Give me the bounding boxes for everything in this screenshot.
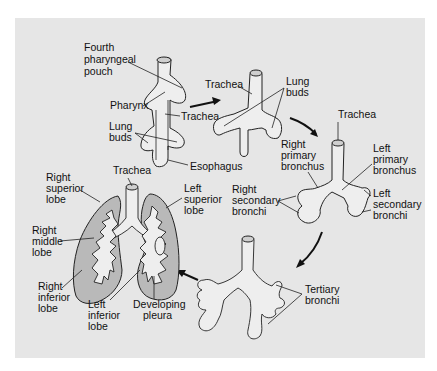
label-right-superior-3: lobe (46, 193, 66, 205)
label-trachea-stage2: Trachea (205, 78, 243, 90)
label-left-secondary-3: bronchi (373, 209, 407, 221)
label-tertiary-2: bronchi (305, 294, 339, 306)
label-left-superior-3: lobe (184, 204, 204, 216)
stage1-pharynx-lung-buds (141, 57, 186, 167)
label-fourth-pharyngeal-pouch-3: pouch (84, 65, 113, 77)
leader-right-primary (308, 172, 318, 188)
arrow-stage3-to-stage4 (300, 232, 322, 264)
stage5-lungs (73, 184, 179, 303)
leader-right-superior (80, 190, 100, 202)
label-right-secondary-3: bronchi (232, 205, 266, 217)
label-lung-buds-stage2-2: buds (286, 86, 309, 98)
leader-right-secondary-b (278, 201, 299, 213)
label-developing-pleura-2: pleura (143, 309, 172, 321)
label-left-primary-3: bronchus (373, 164, 416, 176)
label-right-inferior-3: lobe (38, 302, 58, 314)
label-trachea-stage1: Trachea (181, 110, 219, 122)
label-left-inferior-3: lobe (88, 320, 108, 332)
lung-development-diagram: Fourth pharyngeal pouch Pharynx Trachea … (0, 0, 437, 371)
label-pharynx: Pharynx (110, 99, 149, 111)
leader-right-secondary-a (278, 196, 296, 201)
leader-fourth-pouch (128, 62, 182, 88)
leader-esophagus (168, 160, 188, 165)
label-right-middle-3: lobe (32, 246, 52, 258)
label-right-primary-3: bronchus (281, 160, 324, 172)
stage4-tertiary-bronchi (197, 236, 284, 339)
leader-left-superior (166, 198, 182, 208)
label-lung-buds-stage1-2: buds (109, 131, 132, 143)
label-trachea-stage5: Trachea (113, 164, 151, 176)
label-trachea-stage3: Trachea (338, 108, 376, 120)
label-fourth-pharyngeal-pouch-2: pharyngeal (84, 53, 136, 65)
arrow-stage2-to-stage3 (290, 118, 316, 134)
label-esophagus: Esophagus (190, 160, 243, 172)
arrowhead-1 (212, 97, 221, 105)
label-fourth-pharyngeal-pouch-1: Fourth (84, 41, 115, 53)
